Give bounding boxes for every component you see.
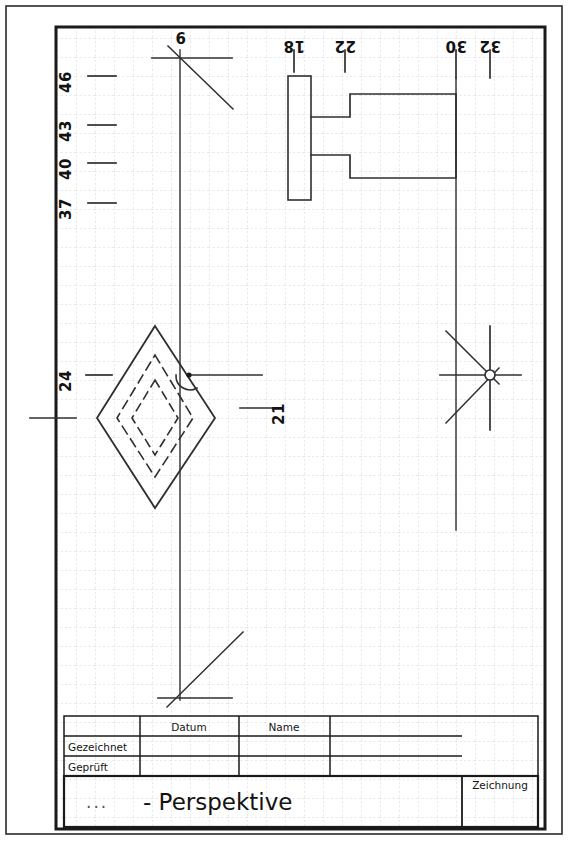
- dim-label-24: 24: [57, 370, 75, 392]
- dim-label-18: 18: [283, 37, 305, 55]
- title-block-col-name: Name: [269, 721, 300, 733]
- dim-label-22: 22: [334, 37, 356, 55]
- drawing-sheet: 46 43 40 37 24 21 6 18 22 30 32: [0, 0, 568, 844]
- title-block-drawing-label: Zeichnung: [472, 779, 528, 791]
- technical-drawing-canvas: 46 43 40 37 24 21 6 18 22 30 32: [0, 0, 568, 844]
- dim-label-40: 40: [57, 158, 75, 180]
- dim-label-46: 46: [57, 71, 75, 93]
- title-block-row-label-gezeichnet: Gezeichnet: [68, 741, 127, 753]
- dim-label-37: 37: [57, 198, 75, 220]
- title-block-row-label-geprueft: Geprüft: [68, 761, 108, 773]
- dim-label-30: 30: [445, 37, 467, 55]
- dim-label-32: 32: [479, 37, 501, 55]
- title-block-prefix: ...: [86, 792, 108, 812]
- title-block-main-title: - Perspektive: [143, 789, 293, 815]
- star-center-circle: [485, 370, 495, 380]
- dim-label-6: 6: [176, 30, 187, 48]
- dim-label-43: 43: [57, 120, 75, 142]
- dim-label-21: 21: [270, 403, 288, 425]
- title-block-col-datum: Datum: [171, 721, 207, 733]
- center-dot-marker: [186, 372, 191, 377]
- grid-field: [56, 27, 545, 829]
